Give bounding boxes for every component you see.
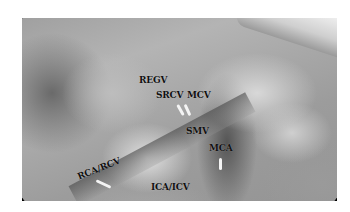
surgical-clip	[219, 158, 222, 170]
label-ica-icv: ICA/ICV	[151, 182, 190, 192]
label-mca: MCA	[209, 143, 233, 153]
label-srcv: SRCV	[156, 90, 183, 100]
laparoscopic-image	[22, 18, 337, 201]
label-mcv: MCV	[187, 90, 211, 100]
label-regv: REGV	[139, 75, 167, 85]
label-smv: SMV	[186, 126, 209, 136]
